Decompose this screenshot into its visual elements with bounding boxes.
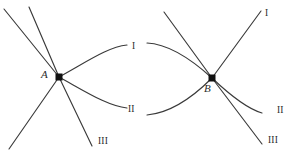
left-branch-label-ii: II [128,105,135,115]
left-ray-upper-far [4,9,59,77]
left-ray-upper-near [29,7,59,77]
left-ray-branch-iii [59,77,92,146]
right-ray-branch-i [212,11,261,78]
left-ray-lower-far [9,77,59,149]
left-curve-branch-ii [59,77,127,108]
node-point-b [209,75,216,82]
right-branch-label-ii: II [277,106,284,116]
right-ray-branch-iii [212,78,262,144]
right-figure-group [147,11,262,144]
node-point-a [56,74,63,81]
figure-canvas: A B I II III I II III [0,0,295,156]
left-branch-label-iii: III [98,137,108,147]
node-label-a: A [41,69,48,80]
left-curve-branch-i [59,45,127,77]
right-ray-upper-left [164,12,212,78]
right-curve-branch-ii [212,78,262,113]
right-branch-label-iii: III [268,136,278,146]
node-label-b: B [204,83,211,94]
right-curve-incoming-upper [147,43,212,78]
right-curve-incoming-lower [147,78,212,115]
left-figure-group [4,7,127,149]
left-branch-label-i: I [132,42,135,52]
right-branch-label-i: I [265,9,268,19]
